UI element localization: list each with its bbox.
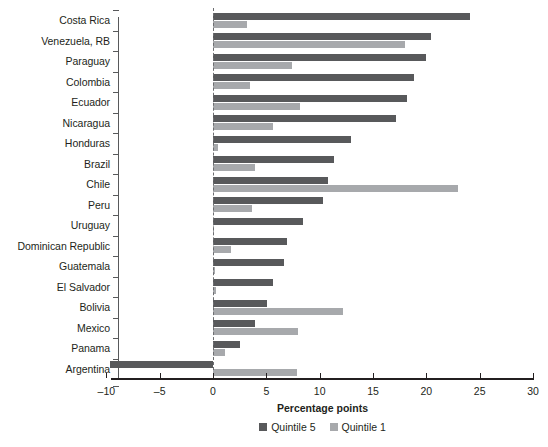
bar-quintile-5: [213, 177, 328, 184]
bar-quintile-5: [213, 320, 255, 327]
category-tick: [113, 277, 119, 278]
bar-quintile-5: [213, 279, 273, 286]
x-tick: [160, 373, 161, 378]
legend-item[interactable]: Quintile 5: [259, 421, 315, 433]
bar-quintile-1: [213, 185, 458, 192]
bar-quintile-1: [213, 103, 300, 110]
bar-row: Brazil: [0, 154, 548, 175]
bar-row: Colombia: [0, 72, 548, 93]
category-tick: [113, 10, 119, 11]
bar-quintile-1: [213, 369, 297, 376]
bar-quintile-5: [213, 13, 470, 20]
category-label: Dominican Republic: [0, 236, 110, 257]
zero-reference-line: [213, 8, 214, 370]
bar-quintile-1: [213, 82, 250, 89]
bar-row: Argentina: [0, 359, 548, 380]
bar-quintile-5: [213, 33, 431, 40]
category-tick: [113, 113, 119, 114]
category-tick: [113, 51, 119, 52]
bar-quintile-5: [213, 238, 287, 245]
category-label: Bolivia: [0, 297, 110, 318]
bar-quintile-1: [213, 205, 252, 212]
bar-quintile-1: [213, 123, 273, 130]
category-tick: [113, 236, 119, 237]
category-label: Guatemala: [0, 256, 110, 277]
legend-swatch-icon: [259, 423, 267, 431]
x-tick-label: 5: [244, 385, 288, 397]
category-label: Nicaragua: [0, 113, 110, 134]
bar-row: Panama: [0, 338, 548, 359]
category-tick: [113, 195, 119, 196]
bar-quintile-5: [110, 361, 213, 368]
x-tick: [213, 373, 214, 378]
bar-row: Paraguay: [0, 51, 548, 72]
bar-row: Venezuela, RB: [0, 31, 548, 52]
x-tick: [426, 373, 427, 378]
bar-row: Honduras: [0, 133, 548, 154]
bar-row: Ecuador: [0, 92, 548, 113]
bar-quintile-1: [213, 41, 405, 48]
x-tick: [480, 373, 481, 378]
bar-quintile-1: [213, 21, 247, 28]
x-tick-label: 30: [511, 385, 548, 397]
category-label: Venezuela, RB: [0, 31, 110, 52]
x-tick: [320, 373, 321, 378]
bar-quintile-5: [213, 136, 351, 143]
category-tick: [113, 359, 119, 360]
x-tick-label: 10: [298, 385, 342, 397]
bar-quintile-5: [213, 156, 334, 163]
x-tick-label: 25: [458, 385, 502, 397]
category-tick: [113, 72, 119, 73]
bar-row: El Salvador: [0, 277, 548, 298]
category-label: Chile: [0, 174, 110, 195]
chart-legend: Quintile 5Quintile 1: [111, 421, 534, 433]
category-label: Colombia: [0, 72, 110, 93]
x-axis-title: Percentage points: [111, 402, 534, 414]
bar-quintile-1: [213, 164, 255, 171]
category-tick: [113, 318, 119, 319]
bar-quintile-5: [213, 74, 414, 81]
bar-quintile-5: [213, 341, 240, 348]
bar-row: Dominican Republic: [0, 236, 548, 257]
bar-row: Chile: [0, 174, 548, 195]
bar-quintile-5: [213, 115, 396, 122]
category-tick: [113, 256, 119, 257]
category-tick: [113, 297, 119, 298]
bar-row: Mexico: [0, 318, 548, 339]
bar-row: Nicaragua: [0, 113, 548, 134]
category-tick: [113, 92, 119, 93]
category-label: El Salvador: [0, 277, 110, 298]
bar-quintile-1: [213, 349, 225, 356]
bar-quintile-5: [213, 218, 303, 225]
x-tick-label: 0: [191, 385, 235, 397]
bar-quintile-1: [213, 62, 292, 69]
bar-row: Uruguay: [0, 215, 548, 236]
bar-quintile-1: [213, 328, 298, 335]
category-tick: [113, 215, 119, 216]
bar-quintile-5: [213, 300, 267, 307]
x-tick-label: 15: [351, 385, 395, 397]
category-label: Paraguay: [0, 51, 110, 72]
category-label: Ecuador: [0, 92, 110, 113]
category-label: Uruguay: [0, 215, 110, 236]
plot-area: Costa RicaVenezuela, RBParaguayColombiaE…: [0, 8, 548, 378]
category-tick: [113, 154, 119, 155]
legend-label: Quintile 1: [342, 421, 386, 433]
x-tick-label: –10: [84, 385, 128, 397]
x-tick: [373, 373, 374, 378]
bar-chart: Costa RicaVenezuela, RBParaguayColombiaE…: [0, 0, 548, 447]
legend-item[interactable]: Quintile 1: [330, 421, 386, 433]
category-label: Panama: [0, 338, 110, 359]
category-tick: [113, 31, 119, 32]
bar-row: Costa Rica: [0, 10, 548, 31]
legend-label: Quintile 5: [271, 421, 315, 433]
category-label: Peru: [0, 195, 110, 216]
bar-quintile-1: [213, 308, 343, 315]
bar-quintile-5: [213, 197, 323, 204]
category-tick: [113, 338, 119, 339]
category-label: Mexico: [0, 318, 110, 339]
category-label: Costa Rica: [0, 10, 110, 31]
bar-quintile-5: [213, 259, 284, 266]
bar-row: Peru: [0, 195, 548, 216]
legend-swatch-icon: [330, 423, 338, 431]
